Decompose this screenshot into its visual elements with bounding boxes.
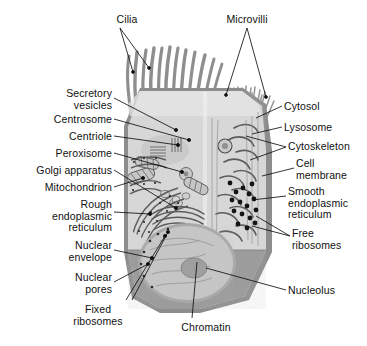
label-chromatin: Chromatin xyxy=(174,322,238,334)
nucleolus-shape xyxy=(181,258,207,278)
label-microvilli: Microvilli xyxy=(214,14,280,26)
label-cell-membrane: Cell membrane xyxy=(296,158,364,181)
label-cytosol: Cytosol xyxy=(284,101,360,113)
label-rough-er: Rough endoplasmic reticulum xyxy=(18,199,112,234)
label-nuclear-pores: Nuclear pores xyxy=(36,272,112,295)
label-smooth-er: Smooth endoplasmic reticulum xyxy=(288,186,364,221)
label-nucleolus: Nucleolus xyxy=(288,285,360,297)
cell-diagram-figure: Cilia Microvilli Secretory vesicles Cent… xyxy=(0,0,367,346)
label-centriole: Centriole xyxy=(24,131,112,143)
label-mitochondrion: Mitochondrion xyxy=(12,182,112,194)
label-peroxisome: Peroxisome xyxy=(20,148,112,160)
label-cytoskeleton: Cytoskeleton xyxy=(288,141,364,153)
label-secretory-vesicles: Secretory vesicles xyxy=(24,88,112,111)
label-cilia: Cilia xyxy=(104,14,150,26)
label-centrosome: Centrosome xyxy=(24,114,112,126)
label-free-ribosomes: Free ribosomes xyxy=(292,228,364,251)
label-fixed-ribosomes: Fixed ribosomes xyxy=(62,304,134,327)
label-golgi-apparatus: Golgi apparatus xyxy=(8,165,112,177)
nucleus-group xyxy=(138,223,236,303)
label-nuclear-envelope: Nuclear envelope xyxy=(28,240,112,263)
label-lysosome: Lysosome xyxy=(284,122,360,134)
